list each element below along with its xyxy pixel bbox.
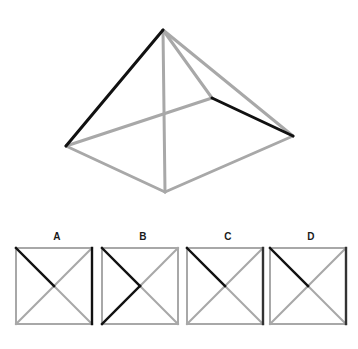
- option-d-svg: [268, 246, 348, 330]
- puzzle-page: A B: [0, 0, 358, 349]
- pyramid-svg: [0, 0, 358, 228]
- edge-apex-to-base-right: [163, 30, 293, 136]
- option-d-diagonal-center-to-bottom-right: [308, 286, 346, 324]
- option-c-diagonal-top-left-to-center: [187, 248, 225, 286]
- option-a-label: A: [14, 231, 100, 243]
- option-b-diagonal-top-left-to-center: [102, 248, 140, 286]
- option-d-label: D: [268, 231, 354, 243]
- option-d[interactable]: D: [268, 228, 354, 340]
- option-c[interactable]: C: [185, 228, 271, 340]
- option-b-label: B: [100, 231, 186, 243]
- option-a[interactable]: A: [14, 228, 100, 340]
- option-c-svg: [185, 246, 265, 330]
- option-c-label: C: [185, 231, 271, 243]
- option-a-svg: [14, 246, 94, 330]
- edge-apex-to-base-front: [163, 30, 165, 192]
- pyramid-figure: [0, 0, 358, 228]
- answer-options: A B: [0, 228, 358, 349]
- edge-base-front-to-base-left: [66, 146, 165, 192]
- option-b-diagonal-top-right-to-center: [140, 248, 178, 286]
- option-b[interactable]: B: [100, 228, 186, 340]
- option-a-diagonal-center-to-bottom-right: [54, 286, 92, 324]
- option-b-diagonal-center-to-bottom-left: [102, 286, 140, 324]
- option-b-diagonal-center-to-bottom-right: [140, 286, 178, 324]
- option-d-diagonal-top-left-to-center: [270, 248, 308, 286]
- option-a-diagonal-top-left-to-center: [16, 248, 54, 286]
- option-c-diagonal-center-to-bottom-right: [225, 286, 263, 324]
- edge-base-right-to-base-front: [165, 136, 293, 192]
- option-b-svg: [100, 246, 180, 330]
